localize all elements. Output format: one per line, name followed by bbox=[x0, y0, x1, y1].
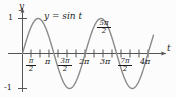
x-axis-arrow bbox=[162, 52, 167, 56]
x-tick-label-2pi: 2π bbox=[79, 58, 89, 66]
x-tick-label-pi: π bbox=[45, 58, 50, 66]
x-tick-label-7pi-over-2: 7π 2 bbox=[118, 58, 132, 74]
x-axis-label: t bbox=[167, 44, 171, 53]
x-tick-label-3pi: 3π bbox=[100, 58, 110, 66]
x-tick-label-3pi-over-2: 3π 2 bbox=[58, 58, 72, 74]
y-tick-label-1: 1 bbox=[8, 14, 13, 22]
x-tick-label-5pi-over-2: 5π 2 bbox=[97, 20, 111, 36]
sine-function-graph: y t 1 -1 y = sin t π 2 π 3π 2 2π 5π 2 3π… bbox=[0, 0, 176, 97]
x-tick-label-4pi: 4π bbox=[140, 58, 150, 66]
plot-canvas bbox=[0, 0, 176, 97]
y-tick-label-neg-1: -1 bbox=[4, 84, 12, 92]
x-tick-label-pi-over-2: π 2 bbox=[26, 58, 36, 74]
y-axis-label: y bbox=[19, 2, 24, 11]
equation-label: y = sin t bbox=[44, 12, 82, 21]
